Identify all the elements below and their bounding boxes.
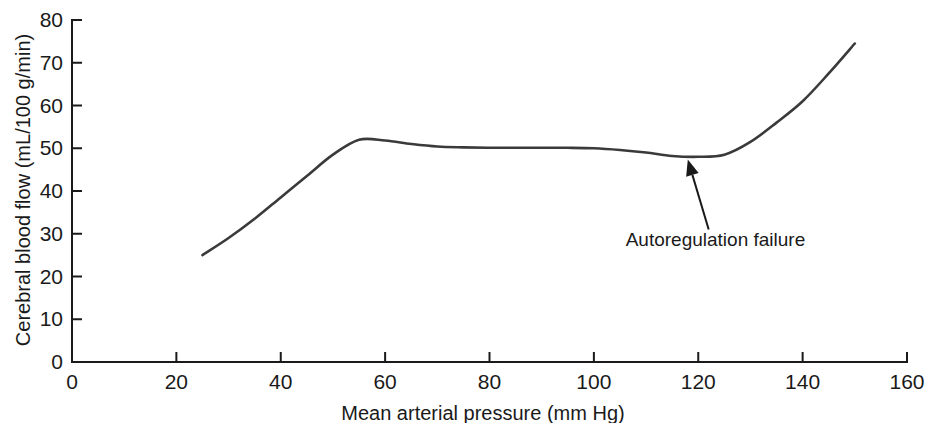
y-axis-tick-label: 40 <box>40 179 63 202</box>
annotation-arrow-head-icon <box>686 160 698 177</box>
annotation-arrow <box>686 160 709 230</box>
y-axis-tick-marks <box>72 20 82 362</box>
annotation-arrow-shaft <box>692 175 708 230</box>
y-axis-tick-label: 60 <box>40 94 63 117</box>
y-axis-title: Cerebral blood flow (mL/100 g/min) <box>12 34 34 346</box>
y-axis-tick-labels: 01020304050607080 <box>40 8 63 373</box>
x-axis-tick-label: 120 <box>681 370 716 393</box>
y-axis-tick-label: 80 <box>40 8 63 31</box>
annotation-label: Autoregulation failure <box>626 229 806 250</box>
x-axis-tick-label: 20 <box>165 370 188 393</box>
x-axis-tick-labels: 020406080100120140160 <box>66 370 924 393</box>
data-series-line <box>202 44 854 256</box>
y-axis-tick-label: 10 <box>40 307 63 330</box>
cerebral-blood-flow-chart: 01020304050607080 020406080100120140160 … <box>0 0 925 423</box>
x-axis-tick-marks <box>176 352 907 362</box>
y-axis-tick-label: 70 <box>40 51 63 74</box>
y-axis-tick-label: 0 <box>51 350 63 373</box>
y-axis-tick-label: 50 <box>40 136 63 159</box>
x-axis-tick-label: 80 <box>478 370 501 393</box>
chart-page: 01020304050607080 020406080100120140160 … <box>0 0 925 423</box>
x-axis-tick-label: 100 <box>576 370 611 393</box>
x-axis-title: Mean arterial pressure (mm Hg) <box>341 402 624 423</box>
x-axis-tick-label: 60 <box>373 370 396 393</box>
x-axis-tick-label: 40 <box>269 370 292 393</box>
x-axis-tick-label: 140 <box>785 370 820 393</box>
x-axis-tick-label: 0 <box>66 370 78 393</box>
y-axis-tick-label: 30 <box>40 222 63 245</box>
y-axis-tick-label: 20 <box>40 265 63 288</box>
x-axis-tick-label: 160 <box>889 370 924 393</box>
